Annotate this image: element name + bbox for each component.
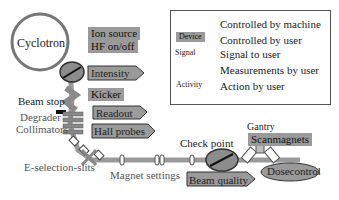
kicker-icon	[66, 88, 76, 110]
readout-signal: Readout	[96, 108, 133, 119]
legend-label-action: Action by user	[220, 80, 285, 92]
e-selection-label: E-selection-slits	[24, 162, 95, 173]
hall-probes-signal: Hall probes	[94, 126, 145, 137]
dosecontrol-activity: Dosecontrol	[267, 166, 321, 177]
legend-activity-symbol: Activity	[176, 81, 202, 89]
kicker-device: Kicker	[88, 88, 124, 101]
beam-quality-signal: Beam quality	[189, 175, 248, 186]
gantry-label: Gantry	[247, 122, 275, 132]
legend-label-measure: Measurements by user	[220, 64, 319, 76]
ion-source-device: Ion source	[88, 27, 140, 40]
magnet-settings-label: Magnet settings	[110, 170, 180, 181]
legend-signal-symbol: Signal	[175, 49, 195, 57]
legend-device-symbol: Device	[176, 32, 205, 42]
scanmagnets-device: Scanmagnets	[248, 133, 312, 146]
check-point-label: Check point	[180, 138, 233, 149]
legend-label-user: Controlled by user	[220, 34, 302, 46]
beam-stop-label: Beam stop	[18, 96, 65, 107]
legend-label-machine: Controlled by machine	[220, 18, 321, 30]
hf-device: HF on/off	[88, 40, 138, 53]
legend-label-signal: Signal to user	[220, 48, 281, 60]
cyclotron-label: Cyclotron	[17, 37, 65, 49]
degrader-label: Degrader	[20, 112, 61, 123]
collimators-label: Collimators	[16, 124, 68, 135]
intensity-signal: Intensity	[91, 68, 130, 79]
